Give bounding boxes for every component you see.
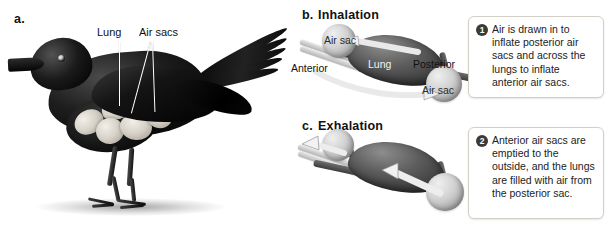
callout-1-text: Air is drawn in to inflate posterior air… bbox=[492, 23, 595, 89]
exhalation-schematic bbox=[300, 115, 480, 233]
callout-exhalation: 2 Anterior air sacs are emptied to the o… bbox=[468, 127, 604, 219]
inhalation-label-anterior: Anterior bbox=[291, 62, 328, 74]
inhalation-label-air-sac-anterior: Air sac bbox=[324, 34, 356, 46]
panel-a-label-air-sacs: Air sacs bbox=[139, 26, 178, 38]
panel-b-inhalation: b. Inhalation Air sac Air sac Lung Anter… bbox=[300, 0, 610, 118]
lung-leader-line bbox=[119, 42, 120, 106]
callout-2-number-badge: 2 bbox=[476, 135, 488, 147]
callout-1-number-badge: 1 bbox=[476, 24, 488, 36]
callout-2-text: Anterior air sacs are emptied to the out… bbox=[492, 134, 595, 200]
panel-a-label-lung: Lung bbox=[97, 26, 121, 38]
exhalation-flow-arrows bbox=[300, 115, 480, 233]
panel-c-exhalation: c. Exhalation 2 Anterior air sacs are em… bbox=[300, 115, 610, 233]
inhalation-label-posterior: Posterior bbox=[413, 58, 455, 70]
inhalation-label-lung: Lung bbox=[368, 58, 391, 70]
bird-eye bbox=[58, 55, 65, 62]
inhalation-label-air-sac-posterior: Air sac bbox=[422, 84, 454, 96]
bird-tail bbox=[196, 18, 300, 92]
callout-inhalation: 1 Air is drawn in to inflate posterior a… bbox=[468, 16, 604, 98]
panel-a-bird-anatomy: a. Lung Air sacs bbox=[0, 0, 300, 233]
